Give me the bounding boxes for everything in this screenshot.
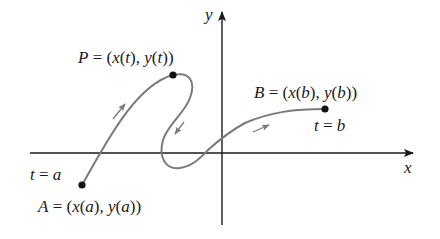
point-p-label: P = (x(t), y(t)) bbox=[77, 48, 174, 67]
y-axis-label: y bbox=[203, 5, 213, 24]
point-p-marker bbox=[169, 71, 176, 78]
direction-arrow-down-left-icon bbox=[175, 122, 184, 134]
t-equals-a-label: t = a bbox=[30, 165, 61, 184]
point-a-label: A = (x(a), y(a)) bbox=[37, 197, 141, 216]
point-b-label: B = (x(b), y(b)) bbox=[254, 83, 357, 102]
axes: x y bbox=[30, 5, 413, 225]
point-b-marker bbox=[321, 105, 328, 112]
direction-arrow-right-icon bbox=[253, 125, 269, 132]
x-axis-label: x bbox=[403, 158, 412, 177]
parametric-curve-diagram: x y P = (x(t), y(t)) B = (x(b), y(b)) t … bbox=[0, 0, 440, 239]
direction-arrows bbox=[113, 104, 269, 134]
point-a-marker bbox=[78, 181, 85, 188]
t-equals-b-label: t = b bbox=[314, 116, 345, 135]
